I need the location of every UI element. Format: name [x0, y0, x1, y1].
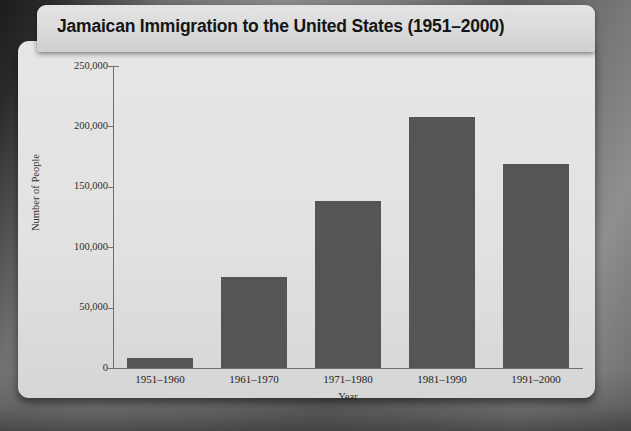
chart-title-plate: Jamaican Immigration to the United State… [37, 5, 595, 52]
page-title: Jamaican Immigration to the United State… [57, 16, 504, 37]
chart-card [18, 41, 595, 398]
